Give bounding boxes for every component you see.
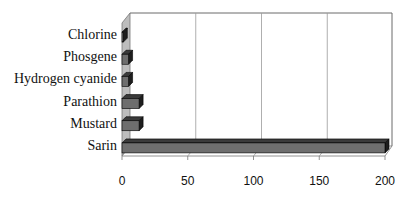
x-tick-label: 150 — [309, 174, 329, 188]
x-axis-ticks: 050100150200 — [119, 156, 396, 188]
bar-hydrogen-cyanide — [122, 72, 133, 86]
x-tick-label: 50 — [181, 174, 195, 188]
back-wall-frame — [130, 13, 392, 146]
x-tick-label: 100 — [243, 174, 263, 188]
bar-chart: ChlorinePhosgeneHydrogen cyanideParathio… — [0, 0, 412, 199]
category-label: Chlorine — [68, 27, 117, 42]
gridlines — [188, 13, 328, 156]
bar-parathion — [122, 95, 143, 109]
bar-phosgene — [122, 50, 133, 64]
bar-sarin — [122, 139, 389, 153]
category-label: Hydrogen cyanide — [14, 71, 117, 86]
plot-walls — [122, 13, 392, 156]
category-label: Phosgene — [63, 49, 117, 64]
category-label: Parathion — [63, 94, 117, 109]
category-labels: ChlorinePhosgeneHydrogen cyanideParathio… — [14, 27, 117, 153]
category-label: Sarin — [87, 138, 117, 153]
bars — [122, 28, 389, 153]
category-label: Mustard — [70, 116, 117, 131]
x-tick-label: 0 — [119, 174, 126, 188]
bar-mustard — [122, 117, 143, 131]
x-tick-label: 200 — [375, 174, 395, 188]
